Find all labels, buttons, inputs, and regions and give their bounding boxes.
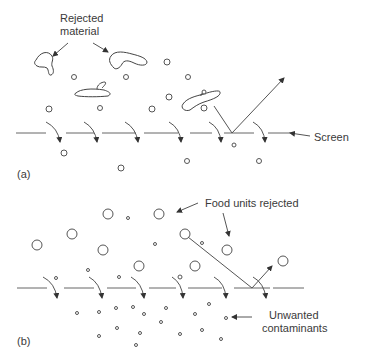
unwanted-contaminants-label-1: Unwanted: [269, 309, 319, 321]
panel-a-label: (a): [17, 168, 30, 180]
rejection-path-out: [232, 78, 284, 133]
food-rejection-path-out: [252, 266, 272, 288]
unwanted-contaminants-label-2: contaminants: [262, 322, 328, 334]
screen-arrow: [290, 133, 310, 136]
screening-diagram: Rejected material S: [0, 0, 365, 359]
screen-label: Screen: [314, 131, 349, 143]
food-units-arrow-2: [223, 213, 229, 236]
food-units-rejected-label: Food units rejected: [205, 197, 299, 209]
panel-b-label: (b): [17, 335, 30, 347]
fall-through-arrows-a: [46, 122, 265, 142]
rejected-material-arrow-1: [53, 43, 68, 56]
rejected-material-label-1: Rejected: [60, 12, 103, 24]
panel-b: Food units rejected Unwanted contaminant…: [17, 197, 328, 347]
food-units: [32, 209, 288, 271]
panel-a: Rejected material S: [16, 12, 349, 180]
contaminants: [55, 217, 228, 347]
food-units-arrow-1: [177, 203, 198, 212]
rejected-material-blobs: [35, 52, 220, 111]
rejected-material-label-2: material: [60, 25, 99, 37]
rejected-material-arrow-2: [93, 43, 108, 52]
particles-a-below: [61, 143, 262, 171]
